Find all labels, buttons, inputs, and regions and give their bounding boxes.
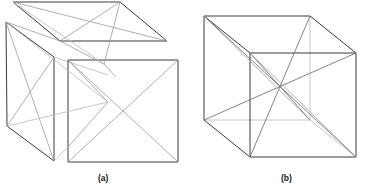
caption-a: (a) [98,173,108,183]
front-face-a [68,60,178,162]
fold-line-leftbottom-to-center [7,102,108,126]
figure-root: (a) (b) [0,0,365,195]
caption-b: (b) [281,173,292,183]
left-face-a [6,22,54,161]
diagram-canvas [0,0,365,195]
left-face-diagonal-2 [7,57,54,126]
panel-a-exploded-cube [6,2,178,162]
edge-back-bl-front-bl [204,120,250,157]
fold-line-leftface-to-center [6,22,108,102]
top-face-a [13,2,167,41]
fold-line-topleft-to-front [13,2,104,64]
back-face-diagonal-b-1 [204,16,310,120]
body-diagonals-b [204,16,356,157]
top-face-diagonal-2 [60,2,120,41]
fold-line-top-edge-to-front [60,41,104,64]
body-diagonal-4 [250,53,310,120]
connector-edge-top [6,22,60,41]
left-face-diagonal-1 [6,22,54,161]
fold-line-leftbottom-to-front [54,147,68,161]
fold-wedge-a [6,2,120,161]
front-face-diagonal-b-1 [250,53,356,157]
panel-b-cube [204,16,356,157]
edge-back-tr-front-tr [310,16,356,53]
edge-back-tl-front-tl [204,16,250,53]
edge-back-br-front-br [310,120,356,157]
wedge-notch-top [104,64,116,77]
